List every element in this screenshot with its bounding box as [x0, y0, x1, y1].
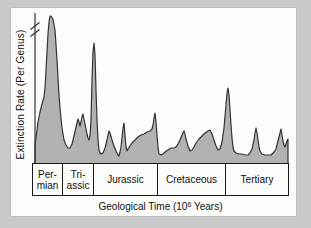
period-cell-jurassic: Jurassic	[94, 164, 158, 195]
period-cell-triassic: Tri- assic	[63, 164, 94, 195]
y-axis-label: Extinction Rate (Per Genus)	[15, 15, 26, 175]
x-axis-title-text-end: Years)	[191, 201, 222, 212]
period-cell-cretaceous: Cretaceous	[158, 164, 226, 195]
period-cell-permian: Per- mian	[33, 164, 63, 195]
screenshot-stage: Extinction Rate (Per Genus) Per- mian Tr…	[0, 0, 311, 228]
x-axis-title: Geological Time (106 Years)	[33, 201, 288, 212]
extinction-rate-area	[35, 16, 288, 164]
geologic-period-band: Per- mian Tri- assic Jurassic Cretaceous…	[32, 163, 289, 196]
x-axis-title-text: Geological Time (10	[99, 201, 188, 212]
period-cell-tertiary: Tertiary	[226, 164, 288, 195]
